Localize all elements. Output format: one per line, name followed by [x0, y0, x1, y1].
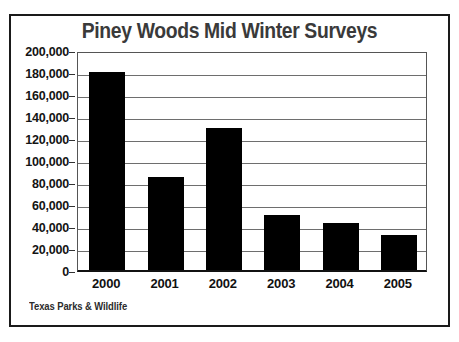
bar-2003 — [264, 215, 300, 270]
y-axis-tick-label: 0 — [3, 265, 69, 279]
gridline — [78, 163, 426, 164]
y-axis-tick-label: 120,000 — [3, 133, 69, 147]
x-axis-tick-label: 2005 — [369, 276, 427, 291]
y-axis-tick-mark — [69, 250, 75, 251]
y-axis-tick-mark — [69, 206, 75, 207]
y-axis-tick-mark — [69, 228, 75, 229]
y-axis-tick-label: 40,000 — [3, 221, 69, 235]
y-axis: 200,000180,000160,000140,000120,000100,0… — [3, 52, 69, 272]
y-axis-tick-mark — [69, 272, 75, 273]
y-axis-tick-label: 180,000 — [3, 67, 69, 81]
gridline — [78, 251, 426, 252]
x-axis: 200020012002200320042005 — [77, 276, 427, 298]
plot-area — [77, 52, 427, 272]
y-axis-tick-label: 100,000 — [3, 155, 69, 169]
y-axis-tick-mark — [69, 118, 75, 119]
gridline — [78, 229, 426, 230]
y-axis-tick-mark — [69, 162, 75, 163]
y-axis-tick-mark — [69, 96, 75, 97]
y-axis-tick-label: 80,000 — [3, 177, 69, 191]
y-axis-tick-mark — [69, 52, 75, 53]
x-axis-tick-label: 2004 — [311, 276, 369, 291]
x-axis-tick-label: 2002 — [194, 276, 252, 291]
plot-wrapper — [77, 52, 427, 272]
y-axis-tick-mark — [69, 74, 75, 75]
gridline — [78, 119, 426, 120]
gridline — [78, 75, 426, 76]
chart-figure: Piney Woods Mid Winter Surveys 200,00018… — [9, 14, 450, 327]
x-axis-tick-label: 2001 — [136, 276, 194, 291]
bar-2001 — [148, 177, 184, 271]
gridline — [78, 185, 426, 186]
bar-2000 — [89, 72, 125, 270]
y-axis-tick-label: 160,000 — [3, 89, 69, 103]
bar-2004 — [323, 223, 359, 270]
bar-2005 — [381, 235, 417, 270]
gridline — [78, 141, 426, 142]
y-axis-tick-label: 140,000 — [3, 111, 69, 125]
bar-2002 — [206, 128, 242, 270]
y-axis-tick-label: 20,000 — [3, 243, 69, 257]
chart-title: Piney Woods Mid Winter Surveys — [37, 18, 422, 44]
y-axis-tick-mark — [69, 140, 75, 141]
gridline — [78, 97, 426, 98]
x-axis-tick-label: 2003 — [252, 276, 310, 291]
y-axis-tick-mark — [69, 184, 75, 185]
x-axis-tick-label: 2000 — [77, 276, 135, 291]
y-axis-tick-label: 200,000 — [3, 45, 69, 59]
source-note: Texas Parks & Wildlife — [29, 300, 127, 312]
gridline — [78, 207, 426, 208]
y-axis-tick-label: 60,000 — [3, 199, 69, 213]
